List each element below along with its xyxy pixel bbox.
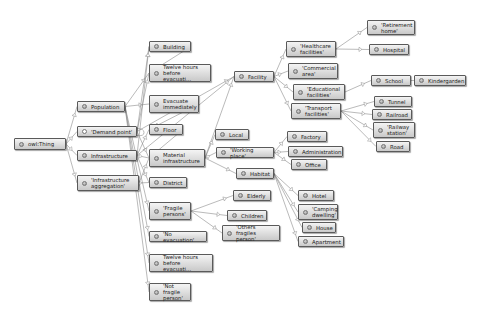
node-label: 'Commercial area' [302, 65, 336, 77]
node-not-fragile-person[interactable]: 'Not fragile person' [149, 283, 191, 301]
class-icon [82, 181, 87, 186]
node-tunnel[interactable]: Tunnel [374, 96, 412, 107]
class-icon [296, 162, 301, 167]
class-icon [419, 78, 424, 83]
node-label: Office [305, 162, 321, 168]
edge-material-habitat [205, 158, 236, 174]
edge-working-factory [274, 137, 287, 153]
node-label: Habitat [250, 171, 270, 177]
class-icon [82, 153, 87, 158]
arrowhead-icon [223, 197, 226, 201]
class-icon [154, 234, 159, 239]
class-icon [232, 213, 237, 218]
node-label: 'Railway station' [387, 124, 409, 136]
node-office[interactable]: Office [291, 159, 327, 170]
node-population[interactable]: Population [77, 101, 125, 112]
node-floor[interactable]: Floor [149, 124, 183, 135]
node-working-place[interactable]: 'Working place' [216, 147, 274, 158]
node-hotel[interactable]: Hotel [298, 190, 334, 201]
node-camping-dwelling[interactable]: 'Camping dwelling' [298, 204, 338, 220]
node-label: 'Camping dwelling' [312, 206, 338, 218]
arrowhead-icon [364, 102, 367, 106]
node-building[interactable]: Building [149, 41, 191, 52]
node-label: District [163, 180, 182, 186]
node-infrastructure-aggregation[interactable]: 'Infrastructure aggregation' [77, 175, 139, 191]
node-label: Tunnel [388, 99, 406, 105]
node-administration[interactable]: Administration [288, 146, 343, 157]
node-label: 'Others fragiles person' [236, 224, 276, 242]
node-elderly[interactable]: Elderly [233, 190, 271, 201]
node-facility[interactable]: Facility [234, 71, 274, 82]
class-icon [241, 171, 246, 176]
node-label: Local [229, 132, 243, 138]
edge-facility-transport [274, 77, 291, 112]
node-others-fragiles-person[interactable]: 'Others fragiles person' [222, 225, 280, 241]
node-label: Building [163, 44, 185, 50]
node-educational-facilities[interactable]: 'Educational facilities' [293, 84, 345, 100]
arrowhead-icon [359, 47, 362, 51]
node-hospital[interactable]: Hospital [369, 44, 409, 55]
class-icon [19, 142, 24, 147]
node-label: Twelve hours before evacuati... [163, 254, 209, 272]
arrowhead-icon [358, 31, 362, 35]
node-fragile-persons[interactable]: 'Fragile persons' [149, 202, 191, 220]
node-label: Material infrastructure [163, 152, 200, 164]
node-evacuate-immediately[interactable]: Evacuate immediately [149, 95, 199, 113]
node-house[interactable]: House [302, 222, 336, 233]
node-school[interactable]: School [371, 75, 411, 86]
node-transport-facilities[interactable]: 'Transport facilities' [291, 103, 341, 119]
node-label: 'No evacuation' [163, 231, 203, 243]
arrowhead-icon [291, 202, 295, 206]
edge-infrastructure-facility [137, 77, 234, 156]
edge-fragile-elderly [191, 196, 233, 212]
node-healthcare-facilities[interactable]: 'Healthcare facilities' [286, 41, 336, 57]
node-label: Railroad [386, 112, 408, 118]
node-label: owl:Thing [28, 141, 54, 147]
edge-demand-building [137, 47, 149, 132]
node-habitat[interactable]: Habitat [236, 168, 274, 179]
node-label: Evacuate immediately [163, 98, 197, 110]
node-label: Elderly [247, 193, 266, 199]
node-children[interactable]: Children [227, 210, 267, 221]
node-label: School [385, 78, 403, 84]
arrowhead-icon [293, 231, 297, 234]
node-retirement-home[interactable]: 'Retirement home' [367, 20, 415, 35]
node-twelve-hours-1[interactable]: Twelve hours before evacuati... [149, 64, 211, 82]
arrowhead-icon [145, 226, 149, 229]
node-district[interactable]: District [149, 177, 187, 188]
class-icon [154, 127, 159, 132]
arrowhead-icon [139, 154, 142, 158]
node-demand-point[interactable]: 'Demand point' [77, 126, 137, 137]
node-kindergarden[interactable]: Kindergarden [414, 75, 466, 86]
edge-transport-tunnel [341, 102, 374, 112]
edge-healthcare-hospital [336, 49, 369, 50]
node-twelve-hours-2[interactable]: Twelve hours before evacuati... [149, 254, 213, 272]
edge-infrastructure-floor [137, 130, 149, 156]
node-owl-thing[interactable]: owl:Thing [14, 138, 66, 150]
node-label: Children [241, 213, 263, 219]
node-infrastructure[interactable]: Infrastructure [77, 150, 137, 161]
node-factory[interactable]: Factory [287, 131, 327, 142]
node-commercial-area[interactable]: 'Commercial area' [288, 63, 338, 79]
class-icon [303, 210, 308, 215]
arrowhead-icon [278, 150, 281, 154]
node-label: Road [390, 144, 404, 150]
node-label: Factory [301, 134, 321, 140]
node-material-infrastructure[interactable]: Material infrastructure [149, 149, 205, 167]
node-label: Hospital [383, 47, 405, 53]
node-local[interactable]: Local [215, 129, 249, 140]
arrowhead-icon [284, 84, 288, 88]
class-icon [227, 231, 232, 236]
node-railroad[interactable]: Railroad [372, 109, 412, 120]
class-icon [154, 180, 159, 185]
node-railway-station[interactable]: 'Railway station' [373, 122, 415, 138]
node-no-evacuation[interactable]: 'No evacuation' [149, 231, 207, 242]
node-road[interactable]: Road [376, 141, 410, 152]
class-icon [292, 134, 297, 139]
class-icon [377, 112, 382, 117]
class-icon [154, 156, 159, 161]
node-label: 'Working place' [230, 147, 270, 159]
class-icon [154, 209, 159, 214]
arrowhead-icon [213, 225, 217, 229]
node-apartment[interactable]: Apartment [298, 236, 344, 247]
